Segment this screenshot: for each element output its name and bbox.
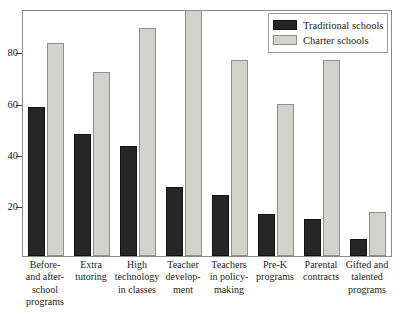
x-axis-label-line: Teacher	[160, 259, 206, 271]
bar-charter	[231, 60, 248, 256]
bar-charter	[93, 72, 110, 256]
x-axis-label-line: develop-	[160, 271, 206, 283]
x-axis-label: Teachersin policy-making	[206, 259, 252, 296]
x-axis-label-line: programs	[22, 296, 68, 308]
chart-legend: Traditional schools Charter schools	[268, 13, 388, 53]
x-axis-label: Parentalcontracts	[298, 259, 344, 284]
bar-chart: 80 60 40 20 Traditional schools Charter …	[0, 0, 403, 322]
bar-group	[23, 11, 69, 256]
bar-traditional	[304, 219, 321, 256]
bar-charter	[139, 28, 156, 256]
x-axis-label-line: Gifted and	[344, 259, 390, 271]
clipped-title-remnant	[96, 0, 216, 2]
legend-label-charter: Charter schools	[303, 35, 369, 46]
bar-group	[161, 11, 207, 256]
bar-charter	[47, 43, 64, 256]
x-axis-label: Teacherdevelop-ment	[160, 259, 206, 296]
x-axis-label-line: Before-	[22, 259, 68, 271]
bar-group	[207, 11, 253, 256]
x-axis-label-line: Teachers	[206, 259, 252, 271]
legend-label-traditional: Traditional schools	[303, 20, 383, 31]
x-axis-label-line: school	[22, 284, 68, 296]
x-axis-label: Before-and after-schoolprograms	[22, 259, 68, 309]
x-axis-label: Hightechnologyin classes	[114, 259, 160, 296]
bar-traditional	[120, 146, 137, 256]
x-axis-label-line: and after-	[22, 271, 68, 283]
x-axis-label-line: talented	[344, 271, 390, 283]
bar-traditional	[166, 187, 183, 256]
bar-traditional	[28, 107, 45, 256]
x-axis-label-line: ment	[160, 284, 206, 296]
bar-traditional	[350, 239, 367, 256]
x-axis-label-line: Parental	[298, 259, 344, 271]
light-swatch-icon	[273, 35, 297, 45]
x-axis-labels: Before-and after-schoolprogramsExtratuto…	[22, 259, 392, 321]
bar-traditional	[258, 214, 275, 256]
x-axis-label-line: making	[206, 284, 252, 296]
legend-entry-charter: Charter schools	[273, 33, 383, 47]
x-axis-label: Pre-Kprograms	[252, 259, 298, 284]
bar-traditional	[74, 134, 91, 257]
dark-swatch-icon	[273, 20, 297, 30]
x-axis-label: Gifted andtalentedprograms	[344, 259, 390, 296]
x-axis-label-line: programs	[252, 271, 298, 283]
x-axis-label-line: programs	[344, 284, 390, 296]
x-axis-label-line: Pre-K	[252, 259, 298, 271]
x-axis-label-line: Extra	[68, 259, 114, 271]
bar-charter	[323, 60, 340, 256]
x-axis-label-line: in policy-	[206, 271, 252, 283]
bar-group	[115, 11, 161, 256]
x-axis-label-line: contracts	[298, 271, 344, 283]
bar-charter	[369, 212, 386, 256]
bar-charter	[277, 104, 294, 256]
x-axis-label-line: technology	[114, 271, 160, 283]
legend-entry-traditional: Traditional schools	[273, 18, 383, 32]
x-axis-label-line: High	[114, 259, 160, 271]
bar-group	[69, 11, 115, 256]
x-axis-label-line: tutoring	[68, 271, 114, 283]
bar-charter	[185, 10, 202, 256]
bar-traditional	[212, 195, 229, 256]
x-axis-label: Extratutoring	[68, 259, 114, 284]
x-axis-label-line: in classes	[114, 284, 160, 296]
